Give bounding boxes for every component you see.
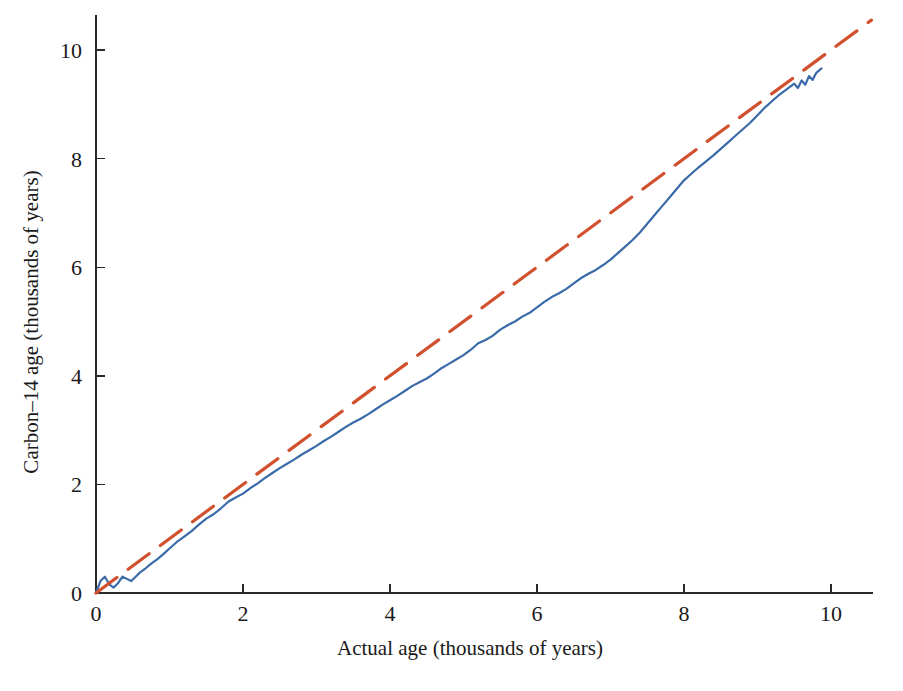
x-tick-label: 10 (820, 601, 842, 626)
y-tick-label: 10 (60, 38, 82, 63)
figure-canvas: 02468100246810 Actual age (thousands of … (0, 0, 903, 691)
y-axis-title: Carbon–14 age (thousands of years) (19, 170, 43, 473)
x-tick-label: 0 (91, 601, 102, 626)
x-tick-label: 8 (679, 601, 690, 626)
x-tick-label: 6 (532, 601, 543, 626)
y-tick-label: 8 (71, 147, 82, 172)
y-tick-label: 0 (71, 581, 82, 606)
x-tick-label: 4 (385, 601, 396, 626)
chart-plot: 02468100246810 Actual age (thousands of … (0, 0, 903, 691)
x-tick-label: 2 (238, 601, 249, 626)
y-tick-label: 6 (71, 255, 82, 280)
series-line-reference (96, 20, 871, 593)
y-tick-label: 2 (71, 472, 82, 497)
data-series-group (96, 20, 871, 593)
x-axis-title: Actual age (thousands of years) (337, 636, 603, 660)
y-tick-label: 4 (71, 364, 82, 389)
